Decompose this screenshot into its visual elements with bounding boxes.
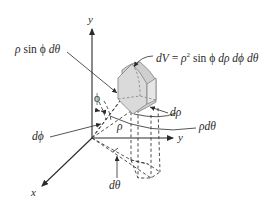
sin: sin — [190, 52, 209, 64]
d-theta: dθ — [46, 43, 60, 55]
d-theta-label: dθ — [109, 180, 120, 192]
rho-label: ρ — [117, 121, 123, 133]
spherical-volume-element-diagram: y y x dV = ρ2 sin ϕ dρ dϕ dθ ρ sin ϕ dθ … — [0, 0, 280, 209]
leader-d-phi — [50, 124, 101, 137]
differentials: dρ dϕ dθ — [215, 52, 258, 64]
leader-d-rho — [150, 107, 168, 113]
volume-element-equation: dV = ρ2 sin ϕ dρ dϕ dθ — [156, 52, 258, 64]
phi-angle-label: ϕ — [94, 93, 100, 105]
sin: sin — [21, 43, 40, 55]
vertical-axis-label: y — [88, 14, 93, 25]
diagram-canvas — [0, 0, 280, 209]
x-axis-label: x — [31, 187, 36, 198]
dV: dV — [156, 52, 169, 64]
x-axis — [42, 138, 92, 186]
d-phi-label: dϕ — [32, 131, 44, 143]
equals: = — [169, 52, 181, 64]
arc-theta-side-label: ρ sin ϕ dθ — [15, 44, 60, 56]
horizontal-axis-label: y — [178, 132, 183, 143]
d-rho-label: dρ — [170, 107, 181, 119]
volume-element-box — [118, 62, 156, 114]
rho-d-theta-label: ρdθ — [199, 121, 216, 133]
